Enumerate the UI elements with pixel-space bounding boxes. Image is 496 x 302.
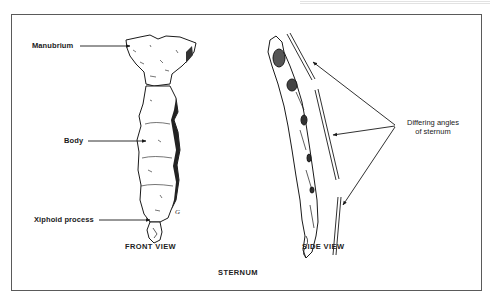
label-manubrium: Manubrium — [32, 41, 73, 50]
figure-title: STERNUM — [218, 268, 258, 277]
artist-mark: G — [175, 208, 180, 216]
sternum-body-shape — [137, 86, 180, 222]
side-view-sternum-shape — [268, 36, 318, 258]
label-differing-angles-line2: of sternum — [398, 127, 468, 136]
caption-side-view: SIDE VIEW — [302, 242, 344, 251]
sternum-illustration: G — [0, 0, 496, 302]
manubrium-shape — [126, 35, 196, 86]
label-xiphoid-process: Xiphoid process — [34, 215, 94, 224]
label-differing-angles-line1: Differing angles — [398, 118, 468, 127]
xiphoid-process-shape — [147, 222, 162, 243]
label-body: Body — [64, 136, 83, 145]
label-differing-angles: Differing angles of sternum — [398, 118, 468, 136]
caption-front-view: FRONT VIEW — [125, 242, 176, 251]
